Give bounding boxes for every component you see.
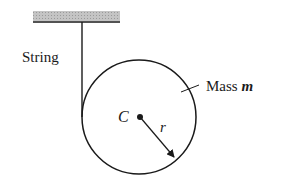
radius-label: r: [160, 119, 166, 135]
string-label: String: [22, 49, 59, 65]
radius-arrow: [140, 117, 174, 157]
pulley-diagram: String Mass m C r: [0, 0, 298, 195]
center-label: C: [118, 108, 129, 125]
mass-label: Mass m: [206, 78, 253, 94]
mass-symbol: m: [241, 78, 253, 94]
mass-label-text: Mass: [206, 78, 241, 94]
ceiling-support: [33, 11, 120, 22]
